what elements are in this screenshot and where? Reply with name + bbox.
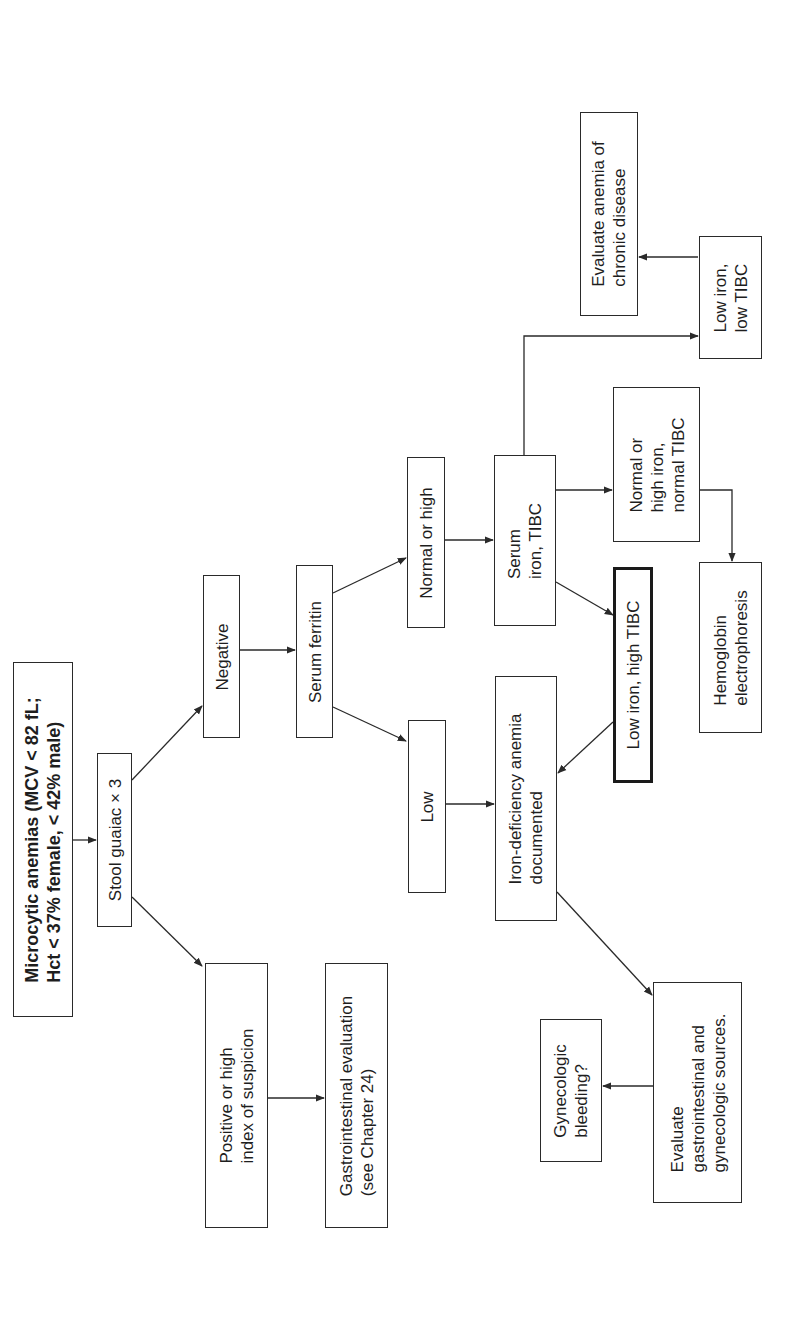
chronic-disease-label: Evaluate anemia of chronic disease <box>588 141 630 287</box>
node-evaluate-chronic-disease: Evaluate anemia of chronic disease <box>580 112 638 316</box>
edge-iron-deficiency-to-evaluate <box>557 892 652 995</box>
node-microcytic-anemias-title: Microcytic anemias (MCV < 82 fL; Hct < 3… <box>13 662 73 1017</box>
node-serum-iron-tibc: Serum iron, TIBC <box>494 455 556 626</box>
low-label: Low <box>417 791 438 822</box>
node-iron-deficiency-documented: Iron-deficiency anemia documented <box>495 676 557 921</box>
stool-guaiac-label: Stool guaiac × 3 <box>104 779 125 901</box>
node-evaluate-gi-gyn-sources: Evaluate gastrointestinal and gynecologi… <box>653 982 742 1203</box>
node-low: Low <box>408 720 446 893</box>
node-normal-or-high: Normal or high <box>407 457 445 628</box>
low-iron-low-tibc-label: Low iron, low TIBC <box>710 263 752 332</box>
hemoglobin-electrophoresis-label: Hemoglobin electrophoresis <box>710 590 752 705</box>
node-positive-high-suspicion: Positive or high index of suspicion <box>205 963 268 1228</box>
edge-ferritin-to-low <box>333 707 406 741</box>
normal-or-high-label: Normal or high <box>416 487 437 599</box>
iron-deficiency-label: Iron-deficiency anemia documented <box>505 713 547 884</box>
gyn-bleeding-label: Gynecologic bleeding? <box>550 1044 592 1138</box>
node-gi-evaluation: Gastrointestinal evaluation (see Chapter… <box>325 963 388 1228</box>
serum-ferritin-label: Serum ferritin <box>304 600 325 702</box>
edge-normal-normal-to-hemoglobin <box>700 490 732 561</box>
node-negative: Negative <box>203 575 240 738</box>
title-label: Microcytic anemias (MCV < 82 fL; Hct < 3… <box>21 697 65 983</box>
edge-ferritin-to-normal-high <box>333 558 406 593</box>
edge-serum-iron-to-low-high <box>556 582 613 615</box>
edge-low-high-to-iron-deficiency <box>558 722 613 773</box>
node-serum-ferritin: Serum ferritin <box>296 565 333 738</box>
positive-label: Positive or high index of suspicion <box>216 1028 258 1163</box>
edge-stool-to-negative <box>132 706 202 780</box>
evaluate-gi-gyn-label: Evaluate gastrointestinal and gynecologi… <box>666 1013 729 1172</box>
flowchart-canvas: Microcytic anemias (MCV < 82 fL; Hct < 3… <box>0 0 785 1322</box>
negative-label: Negative <box>211 623 232 690</box>
node-normal-high-iron-normal-tibc: Normal or high iron, normal TIBC <box>613 387 700 542</box>
gi-evaluation-label: Gastrointestinal evaluation (see Chapter… <box>336 995 378 1195</box>
node-low-iron-high-tibc: Low iron, high TIBC <box>613 567 653 783</box>
normal-high-iron-normal-tibc-label: Normal or high iron, normal TIBC <box>625 417 688 512</box>
edge-stool-to-positive <box>132 897 202 966</box>
serum-iron-tibc-label: Serum iron, TIBC <box>504 502 546 578</box>
node-stool-guaiac: Stool guaiac × 3 <box>97 753 132 927</box>
low-iron-high-tibc-label: Low iron, high TIBC <box>623 601 644 750</box>
node-low-iron-low-tibc: Low iron, low TIBC <box>699 236 762 359</box>
node-hemoglobin-electrophoresis: Hemoglobin electrophoresis <box>699 562 762 733</box>
node-gynecologic-bleeding: Gynecologic bleeding? <box>540 1019 602 1162</box>
